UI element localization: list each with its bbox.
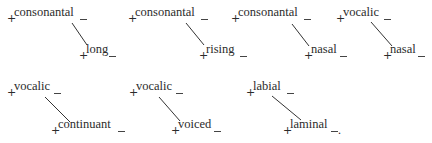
upper-feature: vocalic (136, 79, 172, 94)
upper-feature: vocalic (343, 5, 379, 20)
lower-feature: continuant (58, 117, 111, 132)
lower-feature: nasal (390, 42, 416, 57)
blank-line (384, 19, 391, 20)
blank-line (54, 93, 61, 94)
blank-line (331, 131, 338, 132)
blank-line (287, 93, 294, 94)
blank-line (304, 19, 311, 20)
upper-feature: consonantal (14, 5, 74, 20)
association-line (292, 24, 309, 46)
association-line (72, 23, 87, 45)
lower-feature: nasal (311, 42, 337, 57)
blank-line (118, 131, 125, 132)
blank-line (176, 93, 183, 94)
lower-feature: rising (206, 42, 234, 57)
association-line (371, 22, 392, 46)
upper-feature: vocalic (14, 79, 50, 94)
lower-feature: laminal (290, 117, 328, 132)
terminal-period: . (338, 123, 341, 138)
blank-line (109, 56, 116, 57)
blank-line (80, 19, 87, 20)
upper-feature: consonantal (238, 5, 298, 20)
blank-line (201, 19, 208, 20)
association-line (159, 97, 180, 121)
blank-line (240, 56, 247, 57)
upper-feature: consonantal (135, 5, 195, 20)
blank-line (418, 56, 425, 57)
blank-line (214, 131, 221, 132)
association-line (186, 23, 204, 45)
lower-feature: voiced (178, 117, 211, 132)
upper-feature: labial (253, 79, 281, 94)
lower-feature: long (86, 42, 108, 57)
blank-line (340, 56, 347, 57)
